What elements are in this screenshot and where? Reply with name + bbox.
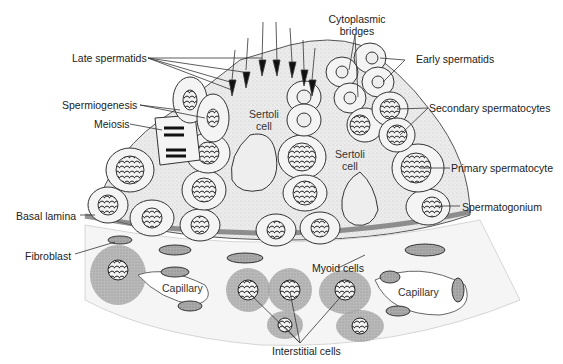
label-fibroblast: Fibroblast xyxy=(25,250,71,262)
label-spermiogenesis: Spermiogenesis xyxy=(62,99,137,111)
label-capillary-left: Capillary xyxy=(162,282,203,294)
label-late-spermatids: Late spermatids xyxy=(72,52,147,64)
label-cytoplasmic-bridges: Cytoplasmic bridges xyxy=(322,13,392,37)
label-secondary-spermatocytes: Secondary spermatocytes xyxy=(429,102,550,114)
label-sertoli-right-line2: cell xyxy=(330,160,370,172)
label-spermatogonium: Spermatogonium xyxy=(462,201,542,213)
label-meiosis: Meiosis xyxy=(94,118,130,130)
label-myoid-cells: Myoid cells xyxy=(312,262,364,274)
label-cytoplasmic-bridges-line2: bridges xyxy=(322,25,392,37)
label-cytoplasmic-bridges-line1: Cytoplasmic xyxy=(322,13,392,25)
label-sertoli-left-line2: cell xyxy=(244,120,284,132)
label-early-spermatids: Early spermatids xyxy=(416,53,494,65)
label-sertoli-cell-left: Sertoli cell xyxy=(244,108,284,132)
label-sertoli-cell-right: Sertoli cell xyxy=(330,148,370,172)
label-interstitial-cells: Interstitial cells xyxy=(272,345,341,357)
label-sertoli-right-line1: Sertoli xyxy=(330,148,370,160)
label-basal-lamina: Basal lamina xyxy=(16,210,76,222)
label-sertoli-left-line1: Sertoli xyxy=(244,108,284,120)
label-capillary-right: Capillary xyxy=(398,286,439,298)
label-primary-spermatocyte: Primary spermatocyte xyxy=(451,162,553,174)
